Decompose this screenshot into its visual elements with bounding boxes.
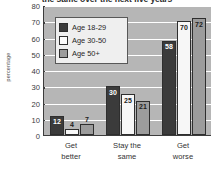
bar-value-label: 7 [85, 116, 89, 123]
gridline [44, 6, 211, 7]
bar[interactable]: 58 [162, 41, 176, 135]
y-tick-label: 60 [18, 34, 40, 43]
y-tick-label: 10 [18, 115, 40, 124]
legend-swatch-icon [59, 36, 68, 45]
legend-label: Age 30-50 [72, 36, 106, 45]
bar[interactable]: 72 [192, 18, 206, 135]
bar[interactable]: 30 [106, 86, 120, 135]
chart-legend: Age 18-29Age 30-50Age 50+ [55, 17, 128, 64]
bar[interactable]: 7 [80, 124, 94, 135]
x-category-label-line: better [43, 151, 99, 162]
bar-group: 587072 [156, 6, 211, 135]
x-category-label-line: Get [43, 140, 99, 151]
bar-value-label: 30 [109, 89, 117, 96]
legend-item[interactable]: Age 18-29 [59, 21, 123, 34]
axis-tick-mark [211, 39, 212, 40]
axis-tick-mark [43, 22, 45, 23]
legend-label: Age 18-29 [72, 23, 106, 32]
bar[interactable]: 4 [65, 129, 79, 136]
y-tick-label: 30 [18, 83, 40, 92]
bar[interactable]: 70 [177, 21, 191, 135]
x-axis-category-labels: GetbetterStay thesameGetworse [43, 140, 211, 174]
axis-tick-mark [43, 104, 45, 105]
bar-value-label: 72 [195, 21, 203, 28]
legend-swatch-icon [59, 49, 68, 58]
axis-tick-mark [43, 39, 45, 40]
bar-value-label: 21 [139, 103, 147, 110]
legend-item[interactable]: Age 30-50 [59, 34, 123, 47]
y-axis-title: percentage [5, 43, 11, 91]
axis-tick-mark [211, 6, 212, 7]
axis-tick-mark [211, 120, 212, 121]
bar[interactable]: 21 [136, 101, 150, 135]
x-category-label-line: same [99, 151, 155, 162]
y-axis-tick-labels: 80706050403020100 [18, 6, 40, 136]
axis-tick-mark [211, 104, 212, 105]
y-tick-label: 20 [18, 99, 40, 108]
axis-tick-mark [43, 87, 45, 88]
bar-value-label: 70 [180, 24, 188, 31]
legend-swatch-icon [59, 23, 68, 32]
axis-tick-mark [211, 22, 212, 23]
bar-value-label: 12 [53, 118, 61, 125]
axis-tick-mark [43, 55, 45, 56]
bar-value-label: 25 [124, 97, 132, 104]
y-tick-label: 40 [18, 67, 40, 76]
axis-tick-mark [43, 120, 45, 121]
x-category-label: Stay thesame [99, 140, 155, 162]
legend-item[interactable]: Age 50+ [59, 47, 123, 60]
axis-tick-mark [211, 55, 212, 56]
x-category-label-line: Get [155, 140, 211, 151]
bar-value-label: 4 [70, 121, 74, 128]
bar-chart: the same over the next five years percen… [0, 0, 214, 180]
y-tick-label: 0 [18, 132, 40, 141]
y-tick-label: 50 [18, 50, 40, 59]
x-category-label: Getbetter [43, 140, 99, 162]
axis-tick-mark [43, 6, 45, 7]
bar[interactable]: 25 [121, 94, 135, 135]
x-category-label: Getworse [155, 140, 211, 162]
legend-label: Age 50+ [72, 49, 100, 58]
bar-value-label: 58 [165, 43, 173, 50]
y-tick-label: 80 [18, 2, 40, 11]
y-tick-label: 70 [18, 18, 40, 27]
axis-tick-mark [43, 71, 45, 72]
x-category-label-line: worse [155, 151, 211, 162]
bar[interactable]: 12 [50, 116, 64, 136]
axis-tick-mark [211, 71, 212, 72]
axis-tick-mark [211, 87, 212, 88]
x-category-label-line: Stay the [99, 140, 155, 151]
